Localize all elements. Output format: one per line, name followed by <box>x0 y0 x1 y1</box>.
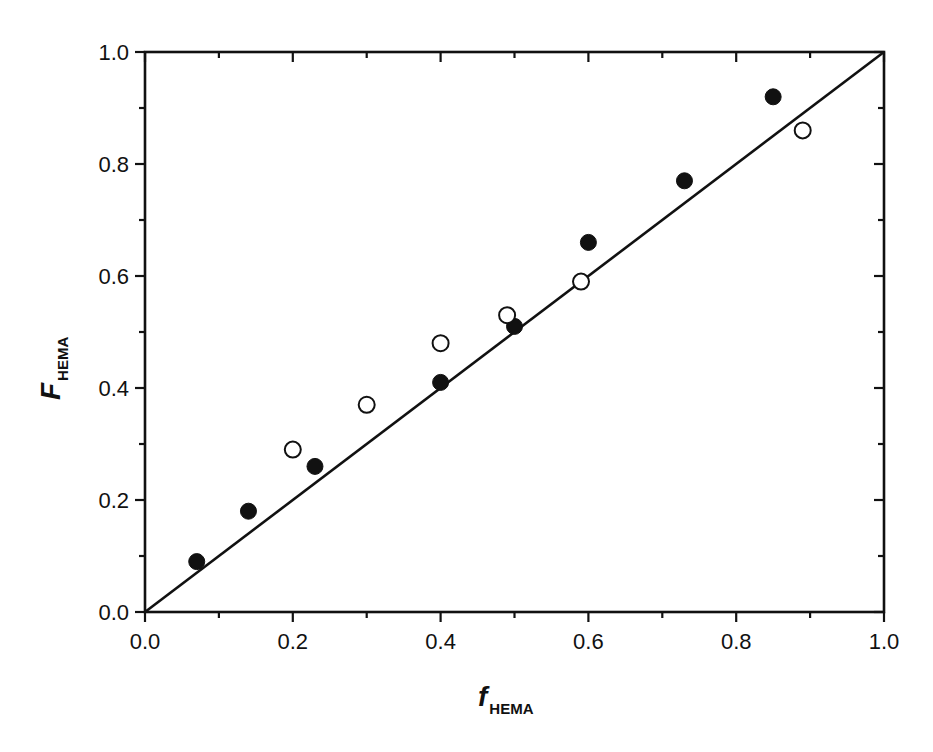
filled-circle-point <box>240 503 256 519</box>
y-tick-labels: 0.00.20.40.60.81.0 <box>98 40 129 625</box>
filled-circle-point <box>433 374 449 390</box>
data-points <box>189 89 811 570</box>
open-circle-point <box>795 122 811 138</box>
y-tick-label: 1.0 <box>98 40 129 65</box>
x-tick-labels: 0.00.20.40.60.81.0 <box>130 629 900 654</box>
y-tick-label: 0.4 <box>98 376 129 401</box>
scatter-chart: 0.00.20.40.60.81.0 0.00.20.40.60.81.0 fH… <box>0 0 933 752</box>
filled-circle-point <box>189 554 205 570</box>
filled-circle-point <box>307 458 323 474</box>
y-axis-title: FHEMA <box>35 337 71 400</box>
filled-circle-point <box>676 173 692 189</box>
y-tick-label: 0.0 <box>98 600 129 625</box>
x-tick-label: 0.4 <box>425 629 456 654</box>
filled-circle-point <box>765 89 781 105</box>
x-tick-label: 0.0 <box>130 629 161 654</box>
x-axis-title: fHEMA <box>478 681 534 717</box>
open-circle-point <box>285 442 301 458</box>
open-circle-point <box>359 397 375 413</box>
open-circle-point <box>573 274 589 290</box>
x-tick-label: 0.6 <box>573 629 604 654</box>
y-tick-label: 0.8 <box>98 152 129 177</box>
x-tick-label: 1.0 <box>869 629 900 654</box>
open-circle-point <box>499 307 515 323</box>
y-tick-label: 0.6 <box>98 264 129 289</box>
filled-circle-point <box>580 234 596 250</box>
x-tick-label: 0.8 <box>721 629 752 654</box>
x-tick-label: 0.2 <box>278 629 309 654</box>
y-tick-label: 0.2 <box>98 488 129 513</box>
open-circle-point <box>433 335 449 351</box>
